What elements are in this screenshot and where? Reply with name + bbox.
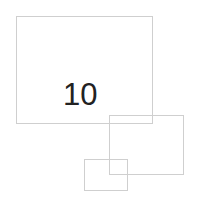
number-label: 10	[63, 79, 97, 110]
small-rectangle	[84, 159, 128, 191]
